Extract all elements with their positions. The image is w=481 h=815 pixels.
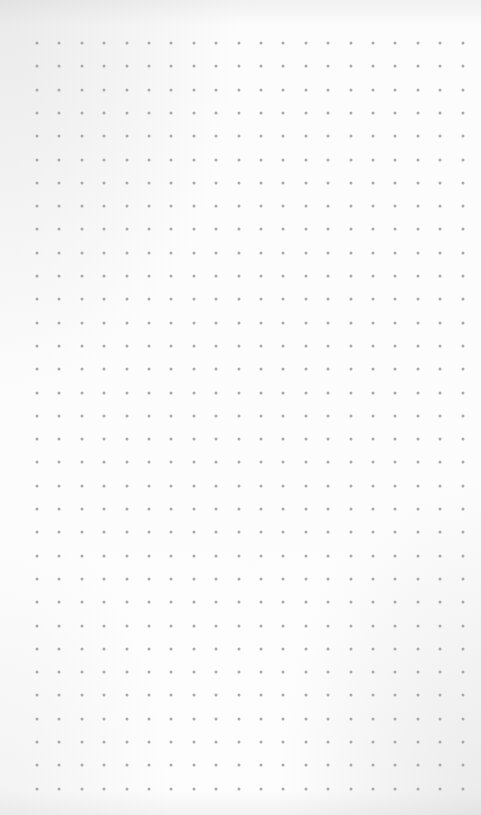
grid-dot: [439, 717, 442, 720]
grid-dot: [439, 484, 442, 487]
grid-dot: [237, 438, 240, 441]
grid-dot: [170, 65, 173, 68]
grid-dot: [148, 275, 151, 278]
grid-dot: [282, 764, 285, 767]
grid-dot: [237, 694, 240, 697]
grid-dot: [125, 484, 128, 487]
grid-dot: [237, 344, 240, 347]
grid-dot: [260, 508, 263, 511]
grid-dot: [327, 251, 330, 254]
grid-dot: [36, 344, 39, 347]
grid-dot: [148, 344, 151, 347]
grid-dot: [461, 251, 464, 254]
grid-dot: [260, 414, 263, 417]
grid-dot: [394, 111, 397, 114]
grid-dot: [304, 461, 307, 464]
grid-dot: [394, 554, 397, 557]
grid-dot: [394, 228, 397, 231]
grid-dot: [349, 671, 352, 674]
grid-dot: [125, 787, 128, 790]
grid-dot: [58, 694, 61, 697]
grid-dot: [103, 694, 106, 697]
grid-dot: [372, 601, 375, 604]
grid-dot: [461, 228, 464, 231]
grid-dot: [36, 764, 39, 767]
grid-dot: [36, 601, 39, 604]
grid-dot: [58, 787, 61, 790]
grid-dot: [80, 368, 83, 371]
grid-dot: [304, 275, 307, 278]
grid-dot: [282, 438, 285, 441]
grid-dot: [439, 508, 442, 511]
grid-dot: [327, 368, 330, 371]
grid-dot: [282, 344, 285, 347]
grid-dot: [125, 42, 128, 45]
grid-dot: [349, 111, 352, 114]
grid-dot: [80, 741, 83, 744]
grid-dot: [36, 251, 39, 254]
grid-dot: [416, 321, 419, 324]
grid-dot: [260, 368, 263, 371]
grid-dot: [416, 158, 419, 161]
grid-dot: [260, 438, 263, 441]
grid-dot: [125, 438, 128, 441]
grid-dot: [58, 111, 61, 114]
grid-dot: [327, 158, 330, 161]
grid-dot: [125, 158, 128, 161]
grid-dot: [349, 158, 352, 161]
grid-dot: [394, 65, 397, 68]
grid-dot: [304, 42, 307, 45]
grid-dot: [282, 484, 285, 487]
grid-dot: [349, 741, 352, 744]
grid-dot: [103, 717, 106, 720]
grid-dot: [170, 391, 173, 394]
grid-dot: [439, 694, 442, 697]
grid-dot: [439, 531, 442, 534]
grid-dot: [372, 344, 375, 347]
grid-dot: [372, 205, 375, 208]
grid-dot: [80, 647, 83, 650]
grid-dot: [349, 275, 352, 278]
grid-dot: [349, 461, 352, 464]
grid-dot: [439, 42, 442, 45]
grid-dot: [304, 438, 307, 441]
grid-dot: [327, 205, 330, 208]
grid-dot: [282, 111, 285, 114]
grid-dot: [439, 65, 442, 68]
grid-dot: [125, 671, 128, 674]
grid-dot: [349, 787, 352, 790]
grid-dot: [439, 344, 442, 347]
grid-dot: [192, 764, 195, 767]
grid-dot: [125, 251, 128, 254]
grid-dot: [148, 438, 151, 441]
grid-dot: [192, 88, 195, 91]
grid-dot: [58, 554, 61, 557]
grid-dot: [349, 601, 352, 604]
grid-dot: [439, 275, 442, 278]
grid-dot: [192, 181, 195, 184]
grid-dot: [282, 508, 285, 511]
grid-dot: [237, 135, 240, 138]
grid-dot: [416, 671, 419, 674]
grid-dot: [192, 391, 195, 394]
grid-dot: [103, 88, 106, 91]
grid-dot: [394, 741, 397, 744]
grid-dot: [416, 764, 419, 767]
grid-dot: [416, 414, 419, 417]
grid-dot: [192, 228, 195, 231]
grid-dot: [394, 694, 397, 697]
grid-dot: [215, 111, 218, 114]
grid-dot: [103, 531, 106, 534]
grid-dot: [58, 228, 61, 231]
grid-dot: [125, 344, 128, 347]
grid-dot: [125, 577, 128, 580]
grid-dot: [327, 531, 330, 534]
grid-dot: [372, 624, 375, 627]
grid-dot: [349, 42, 352, 45]
grid-dot: [215, 554, 218, 557]
grid-dot: [372, 88, 375, 91]
grid-dot: [260, 531, 263, 534]
grid-dot: [260, 671, 263, 674]
grid-dot: [80, 554, 83, 557]
grid-dot: [282, 321, 285, 324]
